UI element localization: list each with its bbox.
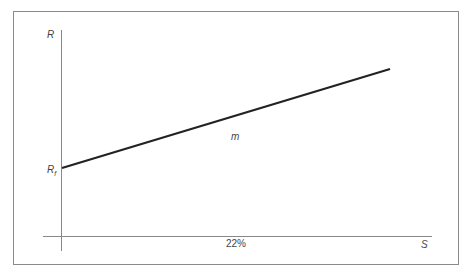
slope-label: m xyxy=(231,132,239,142)
intercept-label-sub: f xyxy=(54,170,56,177)
y-axis-label: R xyxy=(47,30,54,40)
x-axis-label: S xyxy=(421,240,428,250)
x-tick-label: 22% xyxy=(226,239,246,249)
capital-market-line xyxy=(62,69,390,168)
intercept-label: Rf xyxy=(47,165,56,177)
